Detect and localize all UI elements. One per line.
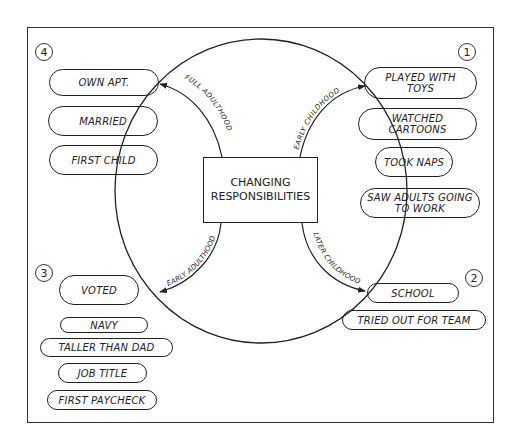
item-voted: VOTED <box>59 275 139 305</box>
stage-number-4: 4 <box>35 43 53 61</box>
arc-label-early-adulthood: EARLY ADULTHOOD <box>166 234 218 288</box>
stage-number-2: 2 <box>465 269 483 287</box>
item-navy: NAVY <box>60 317 148 333</box>
stage-number-3: 3 <box>35 264 53 282</box>
item-first-paycheck: FIRST PAYCHECK <box>47 390 157 410</box>
item-played-with-toys: PLAYED WITH TOYS <box>364 67 477 99</box>
item-watched-cartoons: WATCHED CARTOONS <box>358 108 477 140</box>
item-tried-out-for-team: TRIED OUT FOR TEAM <box>342 310 486 330</box>
arc-label-full-adulthood: FULL ADULTHOOD <box>183 73 233 132</box>
item-saw-adults-going-to-work: SAW ADULTS GOING TO WORK <box>360 188 480 218</box>
item-married: MARRIED <box>48 106 158 136</box>
item-job-title: JOB TITLE <box>58 363 147 383</box>
arc-label-later-childhood: LATER CHILDHOOD <box>312 231 362 286</box>
arc-label-early-childhood: EARLY CHILDHOOD <box>293 86 342 150</box>
item-own-apt: OWN APT. <box>49 69 159 96</box>
item-taller-than-dad: TALLER THAN DAD <box>40 338 173 357</box>
stage-number-1: 1 <box>458 43 476 61</box>
diagram: FULL ADULTHOOD EARLY CHILDHOOD EARLY ADU… <box>0 0 518 446</box>
central-topic-line-2: RESPONSIBILITIES <box>211 190 310 204</box>
central-topic-line-1: CHANGING <box>211 176 310 190</box>
item-took-naps: TOOK NAPS <box>375 147 453 177</box>
central-topic-box: CHANGING RESPONSIBILITIES <box>203 157 318 223</box>
item-school: SCHOOL <box>367 283 459 303</box>
item-first-child: FIRST CHILD <box>49 145 158 175</box>
